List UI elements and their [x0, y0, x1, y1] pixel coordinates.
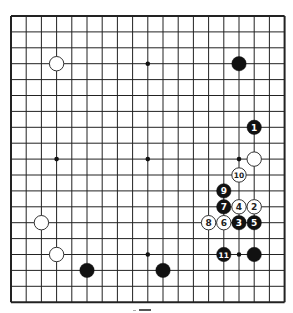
move-number: 6 — [221, 218, 227, 228]
white-stone-move-2: 2 — [247, 200, 261, 214]
move-number: 2 — [251, 202, 257, 212]
black-stone — [156, 263, 170, 277]
stone-disc — [49, 247, 63, 261]
white-stone-move-6: 6 — [217, 216, 231, 230]
star-point — [237, 252, 242, 257]
star-point — [54, 157, 59, 162]
caption-fragment-dot — [133, 310, 136, 311]
black-stone — [247, 247, 261, 261]
white-stone — [34, 216, 48, 230]
white-stone — [49, 57, 63, 71]
move-number: 1 — [251, 123, 257, 133]
move-number: 4 — [236, 202, 242, 212]
stone-disc — [156, 263, 170, 277]
move-number: 9 — [221, 186, 227, 196]
black-stone — [80, 263, 94, 277]
black-stone-move-3: 3 — [232, 216, 246, 230]
star-point — [146, 157, 151, 162]
black-stone-move-11: 11 — [217, 247, 231, 261]
move-number: 7 — [221, 202, 227, 212]
stone-disc — [49, 57, 63, 71]
black-stone-move-9: 9 — [217, 184, 231, 198]
caption-fragment — [139, 309, 151, 311]
stone-disc — [80, 263, 94, 277]
move-number: 11 — [219, 251, 229, 260]
stone-disc — [247, 152, 261, 166]
star-point — [237, 157, 242, 162]
black-stone-move-5: 5 — [247, 216, 261, 230]
star-point — [146, 61, 151, 66]
move-number: 10 — [234, 171, 244, 180]
white-stone-move-10: 10 — [232, 168, 246, 182]
star-point — [146, 252, 151, 257]
stone-disc — [232, 57, 246, 71]
move-number: 3 — [236, 218, 242, 228]
move-number: 8 — [205, 218, 211, 228]
go-board-diagram: 1109742863511 — [0, 0, 293, 313]
black-stone-move-1: 1 — [247, 120, 261, 134]
stone-disc — [34, 216, 48, 230]
black-stone — [232, 57, 246, 71]
stone-disc — [247, 247, 261, 261]
white-stone-move-8: 8 — [201, 216, 215, 230]
white-stone-move-4: 4 — [232, 200, 246, 214]
black-stone-move-7: 7 — [217, 200, 231, 214]
move-number: 5 — [251, 218, 257, 228]
white-stone — [49, 247, 63, 261]
white-stone — [247, 152, 261, 166]
